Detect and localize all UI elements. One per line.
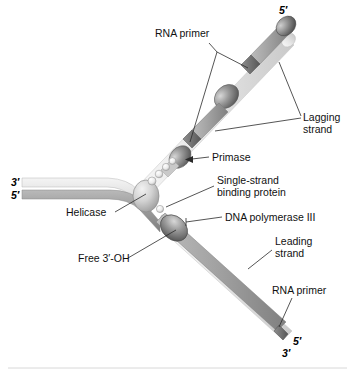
leader-ssb bbox=[166, 186, 214, 207]
label-leading-5prime: 5′ bbox=[293, 335, 302, 347]
leader-leading-strand bbox=[248, 250, 272, 269]
single-strand-binding-protein bbox=[162, 163, 169, 170]
leader-free-3oh bbox=[128, 230, 176, 258]
leader-primase bbox=[192, 157, 209, 159]
single-strand-binding-protein bbox=[169, 158, 176, 165]
label-parental-3prime: 3′ bbox=[11, 176, 20, 188]
single-strand-binding-protein bbox=[155, 170, 163, 178]
helicase-protein bbox=[133, 180, 159, 212]
label-rna-primer-top: RNA primer bbox=[155, 27, 210, 39]
leader-lagging-a bbox=[279, 62, 301, 116]
label-ssb-line1: Single-strand bbox=[217, 174, 279, 186]
figure-canvas: RNA primer Lagging strand Primase Single… bbox=[0, 0, 355, 372]
leader-lagging-b bbox=[215, 118, 301, 131]
label-leading-3prime: 3′ bbox=[282, 347, 291, 359]
label-leading-strand-line2: strand bbox=[275, 247, 304, 259]
dna-replication-figure: RNA primer Lagging strand Primase Single… bbox=[0, 0, 355, 372]
label-dna-polymerase-iii: DNA polymerase III bbox=[225, 211, 315, 223]
label-lagging-5prime: 5′ bbox=[279, 4, 288, 16]
label-leading-strand-line1: Leading bbox=[275, 235, 313, 247]
label-parental-5prime: 5′ bbox=[11, 189, 20, 201]
label-rna-primer-bottom: RNA primer bbox=[272, 284, 327, 296]
single-strand-binding-protein bbox=[156, 205, 163, 212]
label-primase: Primase bbox=[212, 151, 251, 163]
label-helicase: Helicase bbox=[66, 206, 106, 218]
label-lagging-strand-line2: strand bbox=[303, 123, 332, 135]
label-free-3-oh: Free 3′-OH bbox=[78, 252, 130, 264]
label-lagging-strand-line1: Lagging bbox=[303, 111, 341, 123]
single-strand-binding-protein bbox=[148, 177, 156, 185]
leader-dna-pol-iii bbox=[186, 217, 222, 222]
label-ssb-line2: binding protein bbox=[217, 186, 286, 198]
